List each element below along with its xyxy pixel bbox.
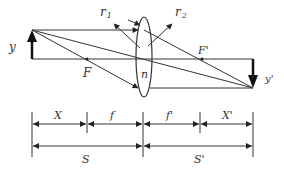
- object-label: y: [8, 40, 16, 54]
- lens-diagram: y y' F F' r1 r2 n X f f' X' S S': [0, 0, 284, 177]
- lens-top-arrow: [128, 20, 140, 25]
- dim-S-label: S: [82, 153, 90, 166]
- dimension-lines: [32, 112, 253, 157]
- radius-1-label: r1: [100, 5, 112, 20]
- dim-X-prime-label: X': [221, 109, 233, 122]
- dim-f-prime-label: f': [165, 109, 173, 122]
- focal-point-front: [86, 58, 89, 61]
- focal-front-label: F: [82, 66, 92, 80]
- focal-back-label: F': [197, 44, 209, 57]
- index-label: n: [141, 68, 148, 81]
- dim-X-label: X: [53, 109, 63, 122]
- dim-f-label: f: [109, 109, 116, 122]
- dim-S-prime-label: S': [194, 153, 205, 166]
- radius-2-label: r2: [175, 5, 187, 20]
- focal-point-back: [201, 58, 204, 61]
- lens: [136, 17, 152, 97]
- image-label: y': [264, 73, 273, 84]
